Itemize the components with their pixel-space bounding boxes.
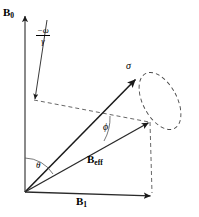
sigma-vector: [25, 80, 136, 193]
vector-diagram-figure: B0 −ω γ σ ϕ θ Beff B1: [0, 0, 199, 217]
horizontal-projection-guide: [34, 100, 149, 122]
omega-numerator: −ω: [36, 26, 50, 35]
phi-label: ϕ: [103, 122, 108, 132]
diagram-canvas: [0, 0, 199, 217]
beff-label: Beff: [87, 154, 103, 165]
b1-label: B1: [76, 196, 87, 207]
precession-path-ellipse: [130, 66, 189, 137]
omega-over-gamma-label: −ω γ: [36, 26, 50, 47]
b1-vector: [25, 192, 151, 196]
gamma-denominator: γ: [36, 37, 50, 46]
b0-label: B0: [3, 7, 14, 18]
vertical-drop-guide: [150, 122, 152, 193]
theta-label: θ: [36, 161, 40, 170]
sigma-label: σ: [126, 61, 131, 71]
